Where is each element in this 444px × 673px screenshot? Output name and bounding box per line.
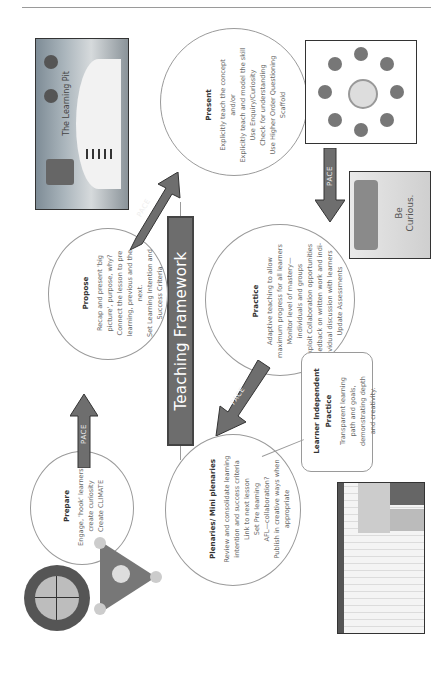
present-text: Present Explicitly teach the concept and… — [203, 10, 263, 200]
connector-line — [180, 446, 181, 460]
triangle-diagram — [92, 537, 162, 617]
framework-title: Teaching Framework — [172, 251, 190, 410]
learner-independent-text: Learner Independent Practice Transparent… — [311, 351, 361, 471]
curious-poster-image: Be Curious. — [349, 171, 431, 259]
present-heading: Present — [203, 10, 215, 200]
learning-pit-title: The Learning Pit — [62, 64, 71, 144]
wheel-diagram-image — [305, 40, 417, 144]
pace-arrow-down-left — [212, 360, 272, 436]
planning-table-image — [337, 482, 425, 634]
learning-pit-image: The Learning Pit — [35, 38, 129, 210]
framework-title-bar: Teaching Framework — [167, 216, 194, 446]
pace-label: PACE — [80, 416, 88, 452]
header-rule — [22, 7, 431, 8]
pace-arrow-diagonal — [118, 172, 186, 250]
school-logo — [24, 565, 90, 631]
